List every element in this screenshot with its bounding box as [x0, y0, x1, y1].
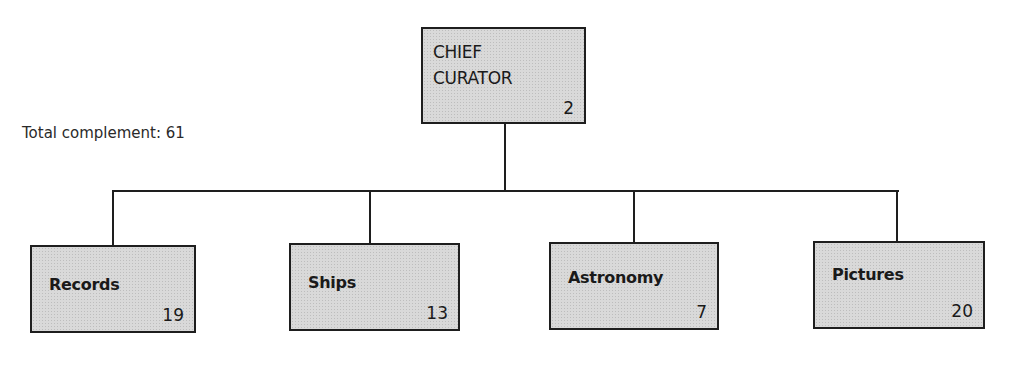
chief-title-line1: CHIEF — [433, 39, 512, 65]
connector-chief-down — [504, 122, 506, 192]
department-count: 19 — [162, 305, 184, 325]
department-box-ships: Ships 13 — [289, 243, 460, 331]
department-box-records: Records 19 — [30, 245, 196, 333]
connector-pictures — [896, 190, 898, 242]
chief-curator-title: CHIEF CURATOR — [433, 39, 512, 91]
department-box-astronomy: Astronomy 7 — [549, 242, 719, 330]
connector-astronomy — [633, 190, 635, 243]
department-count: 20 — [951, 301, 973, 321]
department-name: Pictures — [832, 265, 904, 284]
department-name: Ships — [308, 273, 356, 292]
chief-curator-count: 2 — [563, 98, 574, 118]
connector-horizontal-bar — [112, 190, 899, 192]
department-count: 7 — [696, 302, 707, 322]
department-name: Records — [49, 275, 119, 294]
chief-title-line2: CURATOR — [433, 65, 512, 91]
department-box-pictures: Pictures 20 — [813, 241, 985, 329]
connector-records — [112, 190, 114, 246]
department-count: 13 — [426, 303, 448, 323]
chief-curator-box: CHIEF CURATOR 2 — [421, 27, 586, 124]
connector-ships — [369, 190, 371, 244]
total-complement-note: Total complement: 61 — [22, 124, 185, 142]
department-name: Astronomy — [568, 268, 663, 287]
